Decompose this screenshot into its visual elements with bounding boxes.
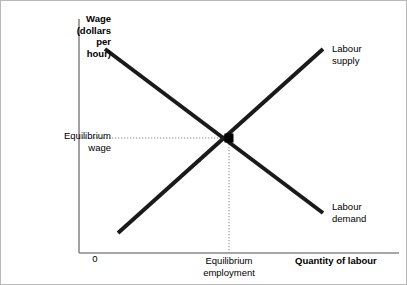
labour-market-diagram: Wage (dollars per hour) Equilibrium wage… <box>0 0 407 285</box>
y-axis-title: Wage (dollars per hour) <box>21 13 111 59</box>
labour-demand-curve <box>105 49 323 213</box>
x-axis-title: Quantity of labour <box>295 255 405 267</box>
labour-supply-curve <box>118 49 323 233</box>
equilibrium-point-marker <box>225 134 234 143</box>
labour-demand-curve-label: Labour demand <box>332 201 406 224</box>
equilibrium-wage-label: Equilibrium wage <box>11 130 111 153</box>
origin-label: 0 <box>89 253 101 265</box>
equilibrium-employment-label: Equilibrium employment <box>179 255 279 278</box>
labour-supply-curve-label: Labour supply <box>332 43 406 66</box>
